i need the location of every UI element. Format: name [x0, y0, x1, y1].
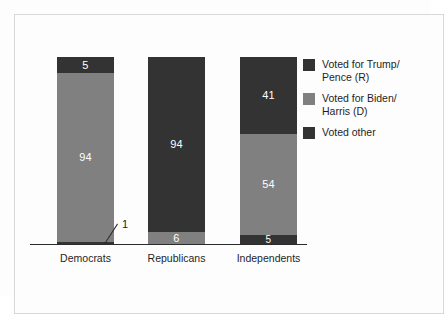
bar-segment-value: 5 [82, 60, 88, 71]
legend-label: Voted other [322, 126, 376, 139]
legend-label-line1: Voted for Trump/ [322, 58, 400, 70]
legend-label-line2: Pence (R) [322, 71, 369, 83]
bar-group-democrats: 5 94 1 Democrats [57, 57, 114, 244]
bar-segment-trump-pence[interactable]: 94 [148, 57, 205, 232]
legend-item-biden-harris[interactable]: Voted for Biden/ Harris (D) [303, 92, 427, 117]
legend-swatch-icon [303, 59, 315, 71]
bar-segment-value: 94 [79, 152, 92, 163]
bar-segment-value: 54 [262, 179, 275, 190]
legend: Voted for Trump/ Pence (R) Voted for Bid… [303, 58, 427, 148]
bar-segment-value: 6 [173, 233, 179, 244]
bar-segment-trump-pence[interactable]: 41 [240, 57, 297, 134]
callout-value: 1 [122, 218, 128, 230]
x-axis-line [30, 244, 307, 245]
stacked-bar[interactable]: 94 6 [148, 57, 205, 244]
legend-item-trump-pence[interactable]: Voted for Trump/ Pence (R) [303, 58, 427, 83]
bar-group-republicans: 94 6 Republicans [148, 57, 205, 244]
bar-segment-biden-harris[interactable]: 54 [240, 134, 297, 235]
legend-label: Voted for Biden/ Harris (D) [322, 92, 397, 117]
stacked-bar[interactable]: 5 94 1 [57, 57, 114, 244]
stacked-bar[interactable]: 41 54 5 [240, 57, 297, 244]
legend-label-line2: Harris (D) [322, 105, 368, 117]
bar-group-independents: 41 54 5 Independents [240, 57, 297, 244]
bar-segment-biden-harris[interactable]: 94 [57, 73, 114, 242]
bar-segment-value: 94 [170, 139, 183, 150]
bar-segment-trump-pence[interactable]: 5 [57, 57, 114, 73]
legend-item-other[interactable]: Voted other [303, 126, 427, 139]
legend-swatch-icon [303, 93, 315, 105]
bar-segment-value: 5 [266, 235, 272, 245]
bar-segment-value: 41 [262, 90, 275, 101]
legend-label-line1: Voted for Biden/ [322, 92, 397, 104]
bar-segment-biden-harris[interactable]: 6 [148, 232, 205, 244]
legend-label: Voted for Trump/ Pence (R) [322, 58, 400, 83]
category-label-republicans: Republicans [148, 252, 206, 264]
legend-label-line1: Voted other [322, 126, 376, 138]
category-label-independents: Independents [237, 252, 301, 264]
bar-segment-other[interactable]: 5 [240, 235, 297, 244]
category-label-democrats: Democrats [60, 252, 111, 264]
legend-swatch-icon [303, 127, 315, 139]
